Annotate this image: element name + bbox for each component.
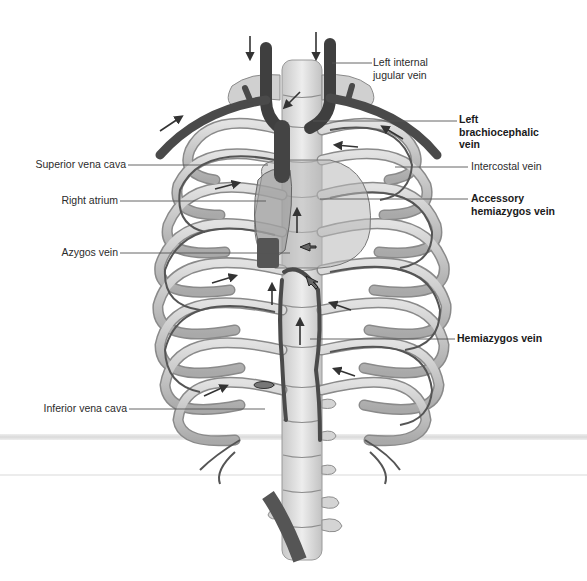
label-intercostal-vein: Intercostal vein [471, 160, 542, 173]
label-accessory-hemiazygos-vein: Accessory hemiazygos vein [471, 192, 555, 217]
label-left-brachiocephalic-vein: Left brachiocephalic vein [459, 113, 539, 151]
label-inferior-vena-cava: Inferior vena cava [0, 402, 127, 415]
label-left-internal-jugular-vein: Left internal jugular vein [373, 56, 428, 81]
label-superior-vena-cava: Superior vena cava [0, 158, 126, 171]
label-azygos-vein: Azygos vein [0, 246, 118, 259]
label-right-atrium: Right atrium [0, 194, 118, 207]
anatomy-illustration [0, 0, 587, 581]
label-hemiazygos-vein: Hemiazygos vein [457, 332, 542, 345]
heart [254, 160, 370, 268]
azygos-system-diagram: Left internal jugular vein Left brachioc… [0, 0, 587, 581]
